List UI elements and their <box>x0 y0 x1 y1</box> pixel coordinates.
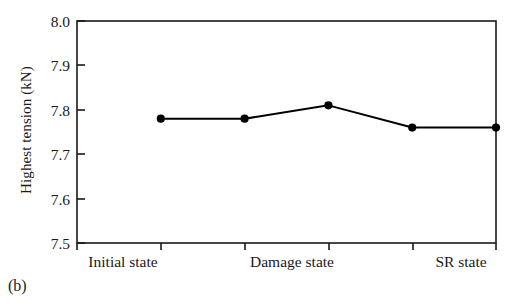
x-tick-label: Initial state <box>88 252 157 272</box>
axes-frame <box>77 21 496 243</box>
figure-caption: (b) <box>8 276 27 296</box>
x-axis-ticks <box>77 243 496 250</box>
data-point <box>324 101 332 109</box>
figure-panel: Highest tension (kN) 8.0 7.9 7.8 7.7 7.6… <box>0 0 515 306</box>
x-axis-tick-labels: Initial state Damage state SR state <box>0 252 515 278</box>
data-point <box>241 115 249 123</box>
x-tick-label: SR state <box>435 252 486 272</box>
data-point <box>408 123 416 131</box>
y-axis-ticks <box>77 21 85 243</box>
x-tick-label: Damage state <box>250 252 334 272</box>
data-point <box>492 123 500 131</box>
data-point <box>157 115 165 123</box>
